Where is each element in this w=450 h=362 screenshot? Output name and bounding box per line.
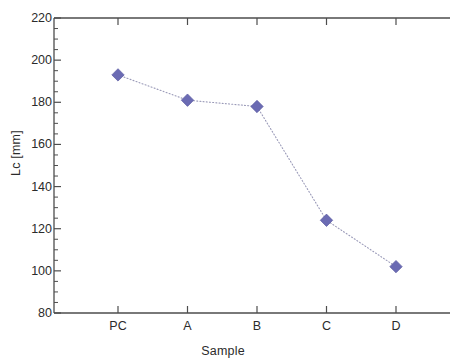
data-point-marker [181,94,193,106]
data-point-marker [112,69,124,81]
data-point-marker [390,260,402,272]
x-axis-title: Sample [58,344,388,358]
x-top-ticks [118,18,396,25]
x-tick-label: PC [88,319,148,333]
x-bottom-ticks [118,306,396,313]
x-tick-label: A [158,319,218,333]
plot-area [0,0,450,362]
x-tick-label: B [227,319,287,333]
x-tick-label: D [366,319,426,333]
x-tick-label: C [297,319,357,333]
axis-lines [54,18,450,313]
data-point-marker [320,214,332,226]
data-point-markers [112,69,402,273]
chart-figure: Lc [mm] 80100120140160180200220 PCABCD S… [0,0,450,362]
data-point-marker [251,100,263,112]
